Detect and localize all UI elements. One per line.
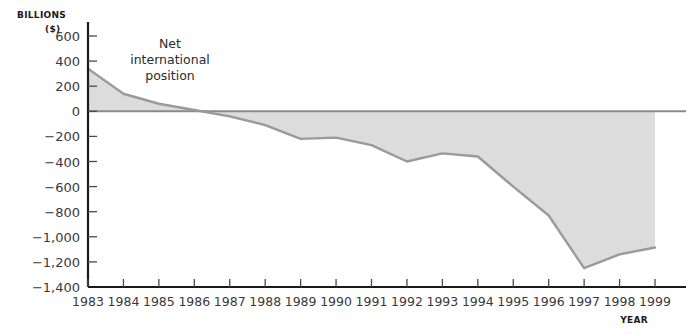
net-international-position-chart: 6004002000−200−400−600−800−1,000−1,200−1… [0, 0, 686, 334]
x-tick-label: 1987 [214, 294, 246, 309]
x-tick-label: 1993 [426, 294, 458, 309]
series-area-group [88, 69, 655, 269]
y-axis-title-line2: ($) [45, 24, 60, 34]
x-axis-group [88, 279, 686, 287]
x-tick-label: 1990 [320, 294, 352, 309]
x-tick-label: 1992 [391, 294, 423, 309]
x-tick-label: 1996 [533, 294, 565, 309]
chart-page: 6004002000−200−400−600−800−1,000−1,200−1… [0, 0, 686, 334]
y-tick-label: 400 [55, 54, 80, 69]
x-tick-labels-group: 1983198419851986198719881989199019911992… [72, 294, 671, 309]
y-tick-label: −1,000 [32, 230, 80, 245]
y-tick-label: −600 [44, 180, 80, 195]
y-axis-group [88, 22, 97, 287]
y-tick-label: 0 [72, 104, 80, 119]
series-area [88, 69, 655, 269]
y-tick-label: −800 [44, 205, 80, 220]
x-tick-label: 1983 [72, 294, 104, 309]
series-annotation-line1: Net [159, 36, 181, 51]
x-tick-label: 1986 [178, 294, 210, 309]
y-tick-label: 200 [55, 79, 80, 94]
x-tick-label: 1999 [639, 294, 671, 309]
series-annotation-line3: position [145, 68, 195, 83]
x-tick-label: 1995 [497, 294, 529, 309]
x-axis-title: YEAR [619, 315, 648, 325]
y-tick-label: −200 [44, 129, 80, 144]
y-tick-labels-group: 6004002000−200−400−600−800−1,000−1,200−1… [32, 29, 80, 295]
x-tick-label: 1988 [249, 294, 281, 309]
x-tick-label: 1989 [285, 294, 317, 309]
y-tick-label: −400 [44, 155, 80, 170]
x-tick-label: 1985 [143, 294, 175, 309]
x-tick-label: 1998 [604, 294, 636, 309]
x-tick-label: 1997 [568, 294, 600, 309]
x-tick-label: 1991 [356, 294, 388, 309]
y-axis-title-line1: BILLIONS [17, 10, 66, 20]
x-tick-label: 1994 [462, 294, 494, 309]
y-tick-label: −1,400 [32, 280, 80, 295]
x-tick-label: 1984 [108, 294, 140, 309]
y-tick-label: −1,200 [32, 255, 80, 270]
series-annotation-line2: international [130, 52, 210, 67]
